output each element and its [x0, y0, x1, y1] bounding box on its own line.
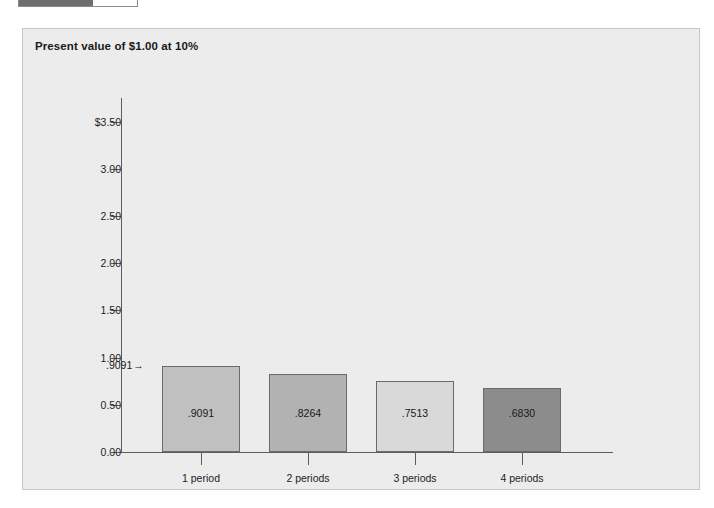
- bar: .6830: [483, 388, 561, 452]
- bar: .9091: [162, 366, 240, 452]
- bar: .8264: [269, 374, 347, 452]
- bar-value-label: .7513: [377, 407, 453, 419]
- x-axis-tick-label: 1 period: [182, 472, 220, 484]
- x-axis-tick-mark: [308, 453, 309, 465]
- chart-panel: Present value of $1.00 at 10% 0.000.501.…: [22, 28, 700, 490]
- callout-label: .9091: [106, 359, 132, 371]
- y-axis-tick-label: $3.50: [41, 116, 121, 128]
- y-axis-tick-label: 2.00: [41, 257, 121, 269]
- bar: .7513: [376, 381, 454, 452]
- y-axis-tick-label: 2.50: [41, 210, 121, 222]
- y-axis-tick-label: 0.50: [41, 399, 121, 411]
- progress-bar[interactable]: [18, 0, 138, 7]
- value-callout-annotation: .9091→: [106, 359, 144, 371]
- x-axis-tick-label: 2 periods: [286, 472, 329, 484]
- x-axis-tick-label: 4 periods: [500, 472, 543, 484]
- x-axis-tick-mark: [522, 453, 523, 465]
- x-axis-line: [121, 452, 613, 453]
- bar-value-label: .9091: [163, 407, 239, 419]
- y-axis-tick-label: 3.00: [41, 163, 121, 175]
- bar-value-label: .6830: [484, 407, 560, 419]
- arrow-right-icon: →: [133, 359, 144, 371]
- y-axis-tick-label: 0.00: [41, 446, 121, 458]
- progress-bar-fill: [19, 0, 93, 6]
- x-axis-tick-label: 3 periods: [393, 472, 436, 484]
- x-axis-tick-mark: [201, 453, 202, 465]
- y-axis-line: [121, 98, 122, 453]
- x-axis-tick-mark: [415, 453, 416, 465]
- bar-value-label: .8264: [270, 407, 346, 419]
- bar-chart-plot: 0.000.501.001.502.002.503.00$3.50 1 peri…: [23, 29, 701, 491]
- y-axis-tick-label: 1.50: [41, 304, 121, 316]
